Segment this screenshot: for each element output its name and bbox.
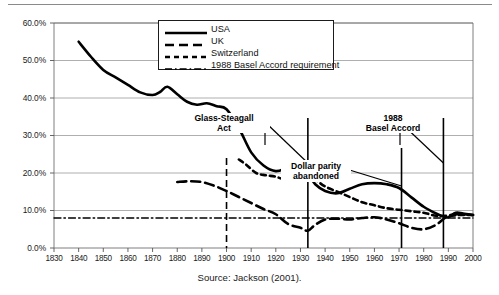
figure-chart: 0.0%10.0%20.0%30.0%40.0%50.0%60.0% 18301…	[0, 0, 499, 295]
y-axis-tick-label: 60.0%	[2, 18, 46, 28]
x-axis-tick-label: 1900	[214, 254, 240, 263]
x-axis-tick-label: 1890	[189, 254, 215, 263]
x-axis-tick-label: 1870	[140, 254, 166, 263]
legend-label: Switzerland	[211, 48, 259, 58]
line-dashed-icon	[164, 49, 208, 61]
glass-steagall-leader-diagonal	[265, 122, 308, 163]
y-axis-tick-label: 0.0%	[2, 243, 46, 253]
chart-legend: USAUKSwitzerland1988 Basel Accord requir…	[158, 20, 334, 70]
event-markers-group	[227, 118, 444, 248]
x-axis-tick-label: 1990	[435, 254, 461, 263]
annotation-line: Dollar parity	[282, 161, 350, 171]
annotation-dollar-parity: Dollar parityabandoned	[281, 160, 351, 182]
y-axis-tick-label: 40.0%	[2, 93, 46, 103]
x-axis-tick-label: 1830	[41, 254, 67, 263]
x-axis-tick-label: 1850	[90, 254, 116, 263]
annotation-line: Act	[178, 123, 270, 133]
x-axis-tick-label: 1860	[115, 254, 141, 263]
series-line-switzerland	[239, 160, 473, 217]
x-axis-tick-label: 1940	[312, 254, 338, 263]
x-axis-tick-label: 2000	[460, 254, 486, 263]
x-axis-tick-label: 1960	[361, 254, 387, 263]
annotation-line: Glass-Steagall	[178, 113, 270, 123]
legend-label: 1988 Basel Accord requirement	[211, 60, 339, 70]
x-axis-tick-label: 1980	[411, 254, 437, 263]
annotation-line: abandoned	[282, 171, 350, 181]
legend-label: USA	[211, 24, 230, 34]
legend-item-1988-basel-accord-requirement: 1988 Basel Accord requirement	[159, 61, 335, 73]
line-dashdot-icon	[164, 61, 208, 73]
x-axis-tick-label: 1930	[287, 254, 313, 263]
x-axis-tick-label: 1970	[386, 254, 412, 263]
x-axis-tick-label: 1950	[337, 254, 363, 263]
x-axis-tick-label: 1840	[66, 254, 92, 263]
line-longdash-icon	[164, 37, 208, 49]
annotation-line: Basel Accord	[350, 123, 436, 133]
x-axis-tick-label: 1910	[238, 254, 264, 263]
y-axis-tick-label: 10.0%	[2, 205, 46, 215]
y-axis-tick-label: 30.0%	[2, 130, 46, 140]
legend-item-usa: USA	[159, 25, 335, 37]
y-axis-tick-label: 20.0%	[2, 168, 46, 178]
series-line-uk	[177, 181, 473, 231]
annotation-glass-steagall: Glass-SteagallAct	[178, 113, 270, 133]
y-axis-tick-label: 50.0%	[2, 55, 46, 65]
legend-label: UK	[211, 36, 224, 46]
annotation-line: 1988	[350, 113, 436, 123]
x-axis-tick-label: 1920	[263, 254, 289, 263]
x-axis-tick-label: 1880	[164, 254, 190, 263]
line-solid-icon	[164, 25, 208, 37]
annotation-basel-accord: 1988Basel Accord	[350, 113, 436, 133]
source-note: Source: Jackson (2001).	[0, 272, 499, 283]
